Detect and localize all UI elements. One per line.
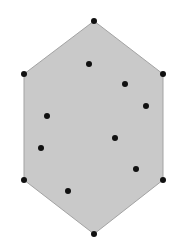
hull-vertex-point-1	[160, 71, 166, 77]
interior-point-0	[86, 61, 92, 67]
hull-vertex-point-4	[21, 177, 27, 183]
convex-hull-diagram	[0, 0, 195, 243]
interior-point-6	[133, 166, 139, 172]
hull-vertex-point-3	[91, 231, 97, 237]
interior-point-3	[44, 113, 50, 119]
hull-vertex-point-5	[21, 71, 27, 77]
interior-point-7	[65, 188, 71, 194]
hull-vertex-point-2	[160, 177, 166, 183]
interior-point-5	[38, 145, 44, 151]
hull-vertex-point-0	[91, 18, 97, 24]
interior-point-2	[143, 103, 149, 109]
interior-point-1	[122, 81, 128, 87]
convex-hull-polygon	[24, 21, 163, 234]
interior-point-4	[112, 135, 118, 141]
diagram-canvas	[0, 0, 195, 243]
